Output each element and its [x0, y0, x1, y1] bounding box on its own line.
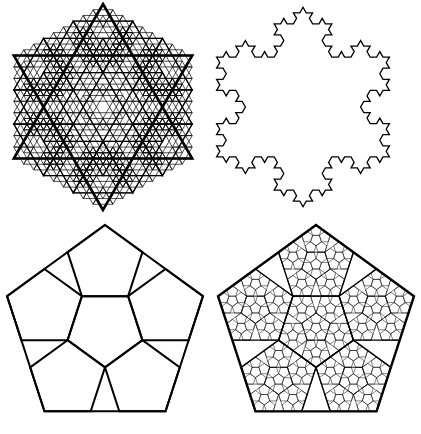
koch-star-fractal-panel [14, 4, 192, 210]
pentaflake-level-1-panel [7, 225, 203, 411]
koch-snowflake-panel [217, 7, 390, 207]
pentaflake-level-3-panel [218, 225, 414, 411]
fractal-figure-svg [0, 0, 421, 434]
fractal-figure [0, 0, 421, 434]
